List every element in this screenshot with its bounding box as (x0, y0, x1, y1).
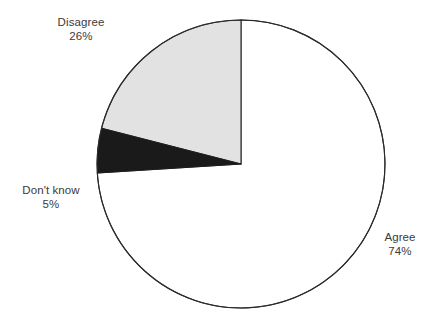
pie-chart: Disagree 26% Don't know 5% Agree 74% (0, 0, 429, 325)
pie-label-agree: Agree 74% (376, 231, 424, 258)
pie-label-agree-value: 74% (376, 245, 424, 259)
pie-label-dont-know-value: 5% (8, 198, 94, 212)
pie-chart-canvas (0, 0, 429, 325)
pie-label-dont-know: Don't know 5% (8, 184, 94, 211)
pie-label-disagree: Disagree 26% (36, 16, 126, 43)
pie-label-disagree-value: 26% (36, 30, 126, 44)
pie-label-dont-know-name: Don't know (8, 184, 94, 198)
pie-label-agree-name: Agree (376, 231, 424, 245)
pie-label-disagree-name: Disagree (36, 16, 126, 30)
